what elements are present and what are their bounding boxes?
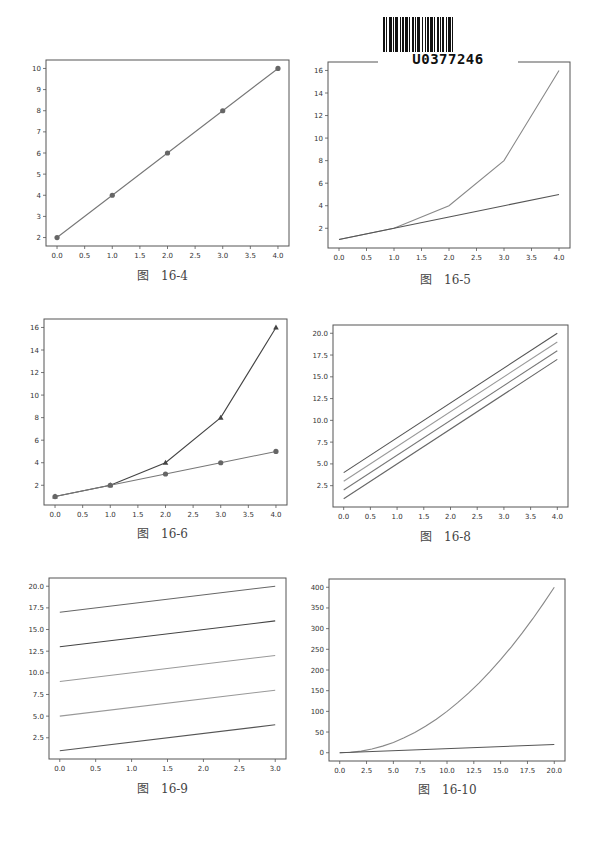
x-tick-label: 3.5 (245, 252, 256, 260)
x-tick-label: 3.0 (498, 513, 509, 521)
y-tick-label: 15.0 (312, 373, 328, 381)
y-tick-label: 8 (319, 157, 323, 165)
y-tick-label: 10 (32, 65, 41, 73)
y-tick-label: 12 (30, 369, 39, 377)
y-tick-label: 2 (35, 482, 39, 490)
x-tick-label: 1.0 (107, 252, 118, 260)
y-tick-label: 4 (35, 459, 40, 467)
figure-caption: 图 16-5 (420, 270, 471, 287)
axes-frame (333, 325, 568, 507)
x-tick-label: 0.0 (338, 513, 349, 521)
x-tick-label: 3.5 (243, 511, 254, 519)
series-line-line2 (60, 690, 275, 716)
series-line-exponential (55, 328, 276, 497)
x-tick-label: 10.0 (439, 767, 455, 775)
y-tick-label: 20.0 (312, 330, 328, 338)
y-tick-label: 17.5 (312, 352, 328, 360)
y-tick-label: 7 (37, 128, 41, 136)
series-line-line4 (60, 621, 275, 647)
x-tick-label: 5.0 (388, 767, 399, 775)
axes-frame (328, 62, 570, 248)
y-tick-label: 9 (37, 86, 41, 94)
series-line-exponential (339, 71, 559, 240)
series-line-y=4x+3 (344, 342, 558, 481)
x-tick-label: 2.0 (198, 765, 209, 773)
y-tick-label: 10.0 (312, 417, 328, 425)
y-tick-label: 17.5 (28, 604, 44, 612)
x-tick-label: 0.5 (365, 513, 376, 521)
y-tick-label: 3 (37, 213, 41, 221)
y-tick-label: 5.0 (317, 460, 328, 468)
x-tick-label: 3.0 (215, 511, 226, 519)
chart-fig-16-9: 0.00.51.01.52.02.53.02.55.07.510.012.515… (49, 578, 286, 759)
barcode-bars (383, 17, 515, 52)
circle-marker-icon (52, 494, 57, 499)
y-tick-label: 0 (320, 749, 324, 757)
x-tick-label: 7.5 (415, 767, 426, 775)
chart-fig-16-5: 0.00.51.01.52.02.53.03.54.0246810121416 (328, 62, 570, 248)
x-tick-label: 2.0 (445, 513, 456, 521)
x-tick-label: 3.0 (217, 252, 228, 260)
barcode: U0377246 (378, 15, 518, 65)
y-tick-label: 12.5 (312, 395, 328, 403)
x-tick-label: 0.0 (333, 254, 344, 262)
x-tick-label: 0.5 (77, 511, 88, 519)
x-tick-label: 0.5 (90, 765, 101, 773)
x-tick-label: 2.5 (188, 511, 199, 519)
y-tick-label: 200 (311, 667, 324, 675)
circle-marker-icon (163, 471, 168, 476)
circle-marker-icon (108, 483, 113, 488)
x-tick-label: 2.5 (472, 513, 483, 521)
y-tick-label: 12.5 (28, 648, 44, 656)
circle-marker-icon (218, 460, 223, 465)
x-tick-label: 2.5 (234, 765, 245, 773)
series-line-y=4x+1 (344, 359, 558, 498)
y-tick-label: 300 (311, 625, 324, 633)
x-tick-label: 0.5 (79, 252, 90, 260)
y-tick-label: 6 (319, 180, 324, 188)
chart-fig-16-6: 0.00.51.01.52.02.53.03.54.0246810121416 (44, 319, 287, 505)
x-tick-label: 0.0 (51, 252, 62, 260)
chart-fig-16-8: 0.00.51.01.52.02.53.03.54.02.55.07.510.0… (333, 325, 568, 507)
x-tick-label: 2.5 (471, 254, 482, 262)
circle-marker-icon (273, 449, 278, 454)
series-line-line5 (60, 586, 275, 612)
x-tick-label: 2.0 (443, 254, 454, 262)
y-tick-label: 8 (37, 107, 41, 115)
x-tick-label: 2.0 (160, 511, 171, 519)
x-tick-label: 0.0 (54, 765, 65, 773)
y-tick-label: 14 (314, 90, 323, 98)
y-tick-label: 400 (311, 584, 324, 592)
chart-fig-16-10: 0.02.55.07.510.012.515.017.520.005010015… (329, 579, 565, 761)
series-line-y=x^2 (340, 587, 555, 752)
y-tick-label: 50 (315, 729, 324, 737)
x-tick-label: 2.5 (361, 767, 372, 775)
circle-marker-icon (275, 66, 280, 71)
x-tick-label: 4.0 (553, 254, 564, 262)
chart-fig-16-4: 0.00.51.01.52.02.53.03.54.02345678910 (46, 60, 289, 246)
axes-frame (329, 579, 565, 761)
figure-caption: 图 16-4 (137, 266, 188, 283)
circle-marker-icon (54, 235, 59, 240)
figure-caption: 图 16-6 (137, 524, 188, 541)
y-tick-label: 10 (314, 135, 323, 143)
circle-marker-icon (110, 193, 115, 198)
y-tick-label: 6 (35, 437, 40, 445)
y-tick-label: 350 (311, 604, 324, 612)
y-tick-label: 14 (30, 347, 39, 355)
x-tick-label: 2.0 (162, 252, 173, 260)
series-line-y=4x+2 (344, 351, 558, 490)
x-tick-label: 2.5 (190, 252, 201, 260)
x-tick-label: 0.0 (49, 511, 60, 519)
x-tick-label: 4.0 (270, 511, 281, 519)
circle-marker-icon (165, 150, 170, 155)
triangle-marker-icon (273, 324, 279, 329)
series-line-line3 (60, 656, 275, 682)
x-tick-label: 1.0 (126, 765, 137, 773)
y-tick-label: 250 (311, 646, 324, 654)
axes-frame (44, 319, 287, 505)
x-tick-label: 12.5 (466, 767, 482, 775)
y-tick-label: 12 (314, 112, 323, 120)
x-tick-label: 4.0 (552, 513, 563, 521)
y-tick-label: 2 (319, 225, 323, 233)
